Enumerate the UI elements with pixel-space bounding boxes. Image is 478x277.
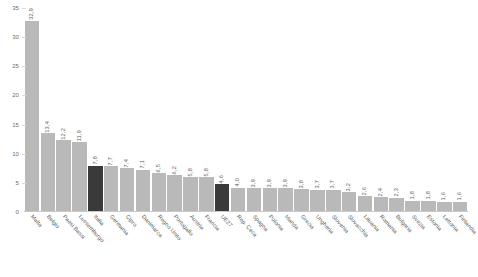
bar-item[interactable]: 7,4 <box>120 8 134 211</box>
bar-item[interactable]: 12,2 <box>56 8 70 211</box>
y-axis-tick-label: 0 <box>16 209 19 215</box>
bar-rect[interactable] <box>41 133 55 211</box>
bar-rect[interactable] <box>247 188 261 211</box>
x-axis-label-slot: Romania <box>374 214 388 276</box>
x-axis-label-slot: Belgio <box>41 214 55 276</box>
y-axis-tick-label: 15 <box>12 122 19 128</box>
y-axis-tick-label: 35 <box>12 5 19 11</box>
plot-area: 32,913,412,211,97,87,77,47,16,56,25,85,8… <box>24 8 468 212</box>
bar-rect[interactable] <box>136 170 150 211</box>
x-axis-label-slot: Rep. Ceca <box>231 214 245 276</box>
y-axis-tick-mark <box>22 95 26 96</box>
y-axis-tick-mark <box>22 125 26 126</box>
bar-rect[interactable] <box>199 177 213 211</box>
y-axis-tick-mark <box>22 37 26 38</box>
bar-item[interactable]: 1,6 <box>453 8 467 211</box>
bar-item[interactable]: 3,9 <box>263 8 277 211</box>
x-axis-label-slot: Francia <box>199 214 213 276</box>
bar-rect[interactable] <box>294 189 308 211</box>
bar-item[interactable]: 3,8 <box>294 8 308 211</box>
x-axis-label-slot: Polonia <box>263 214 277 276</box>
bar-item[interactable]: 3,9 <box>278 8 292 211</box>
bar-series: 32,913,412,211,97,87,77,47,16,56,25,85,8… <box>24 8 468 211</box>
bar-rect[interactable] <box>152 173 166 211</box>
bar-item[interactable]: 6,5 <box>152 8 166 211</box>
bar-rect[interactable] <box>453 202 467 211</box>
y-axis-tick-label: 25 <box>12 63 19 69</box>
bar-value-label: 3,9 <box>251 179 257 187</box>
bar-value-label: 2,4 <box>378 188 384 196</box>
x-axis-label-slot: Finlandia <box>453 214 467 276</box>
y-axis-tick-mark <box>22 8 26 9</box>
bar-value-label: 2,3 <box>394 188 400 196</box>
x-axis-label-slot: Spagna <box>247 214 261 276</box>
bar-value-label: 7,4 <box>124 159 130 167</box>
bar-value-label: 1,8 <box>426 191 432 199</box>
bar-item[interactable]: 32,9 <box>25 8 39 211</box>
bar-rect[interactable] <box>167 175 181 211</box>
bar-item[interactable]: 7,1 <box>136 8 150 211</box>
bar-value-label: 3,8 <box>299 180 305 188</box>
bar-item[interactable]: 5,8 <box>199 8 213 211</box>
bar-item[interactable]: 1,6 <box>437 8 451 211</box>
x-axis-label-slot: Austria <box>183 214 197 276</box>
bar-item[interactable]: 7,7 <box>104 8 118 211</box>
bar-item[interactable]: 2,6 <box>358 8 372 211</box>
bar-item[interactable]: 2,4 <box>374 8 388 211</box>
bar-item[interactable]: 4,0 <box>231 8 245 211</box>
bar-rect[interactable] <box>104 166 118 211</box>
x-axis-label-slot: Paesi Bassi <box>56 214 70 276</box>
bar-rect[interactable] <box>56 140 70 211</box>
bar-item[interactable]: 2,3 <box>389 8 403 211</box>
bar-item[interactable]: 3,9 <box>247 8 261 211</box>
bar-rect[interactable] <box>437 202 451 211</box>
bar-item[interactable]: 3,7 <box>310 8 324 211</box>
bar-rect[interactable] <box>421 201 435 211</box>
y-axis-tick-mark <box>22 154 26 155</box>
bar-rect[interactable] <box>183 177 197 211</box>
bar-value-label: 3,9 <box>267 179 273 187</box>
bar-rect-highlighted[interactable] <box>215 184 229 211</box>
bar-rect[interactable] <box>120 168 134 211</box>
x-axis-tick-label: Finlandia <box>457 214 477 235</box>
x-axis-label-slot: Italia <box>88 214 102 276</box>
bar-item[interactable]: 3,7 <box>326 8 340 211</box>
bar-rect[interactable] <box>278 188 292 211</box>
bar-item[interactable]: 13,4 <box>41 8 55 211</box>
bar-value-label: 13,4 <box>45 121 51 133</box>
bar-value-label: 32,9 <box>29 8 35 20</box>
x-axis-label-slot: Slovenia <box>326 214 340 276</box>
bar-value-label: 6,2 <box>172 166 178 174</box>
bar-rect[interactable] <box>231 188 245 211</box>
y-axis-tick-mark <box>22 183 26 184</box>
bar-item[interactable]: 3,2 <box>342 8 356 211</box>
bar-item[interactable]: 1,8 <box>421 8 435 211</box>
bar-item[interactable]: 4,6 <box>215 8 229 211</box>
bar-value-label: 4,6 <box>219 175 225 183</box>
x-axis-label-slot: Irlanda <box>278 214 292 276</box>
bar-rect[interactable] <box>25 21 39 211</box>
bar-value-label: 12,2 <box>61 128 67 140</box>
bar-item[interactable]: 1,8 <box>405 8 419 211</box>
bar-rect[interactable] <box>263 188 277 211</box>
bar-value-label: 3,9 <box>283 179 289 187</box>
bar-rect[interactable] <box>405 201 419 211</box>
bar-rect[interactable] <box>342 192 356 211</box>
bar-item[interactable]: 6,2 <box>167 8 181 211</box>
bar-rect[interactable] <box>310 190 324 211</box>
x-axis-label-slot: Bulgaria <box>389 214 403 276</box>
bar-rect-highlighted[interactable] <box>88 166 102 211</box>
x-axis-label-slot: UE27 <box>215 214 229 276</box>
bar-item[interactable]: 5,8 <box>183 8 197 211</box>
bar-item[interactable]: 11,9 <box>72 8 86 211</box>
bar-rect[interactable] <box>326 190 340 211</box>
bar-rect[interactable] <box>374 197 388 211</box>
x-axis-label-slot: Lussemburgo <box>72 214 86 276</box>
bar-value-label: 7,7 <box>108 157 114 165</box>
bar-rect[interactable] <box>358 196 372 211</box>
bar-rect[interactable] <box>72 142 86 211</box>
bar-item[interactable]: 7,8 <box>88 8 102 211</box>
x-axis-label-slot: Cipro <box>120 214 134 276</box>
bar-rect[interactable] <box>389 198 403 211</box>
